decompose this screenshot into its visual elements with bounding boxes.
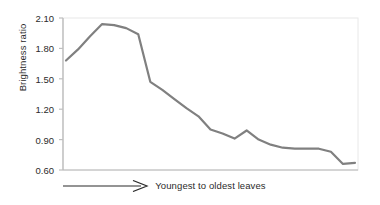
plot-background: [63, 18, 358, 170]
x-axis-label: Youngest to oldest leaves: [155, 180, 265, 191]
chart-figure: Brightness ratio 2.10 1.80 1.50 1.20 0.9…: [0, 0, 380, 205]
arrow-right-icon: [63, 180, 149, 192]
x-axis-label-group: Youngest to oldest leaves: [63, 180, 358, 191]
plot-area: [0, 0, 380, 205]
